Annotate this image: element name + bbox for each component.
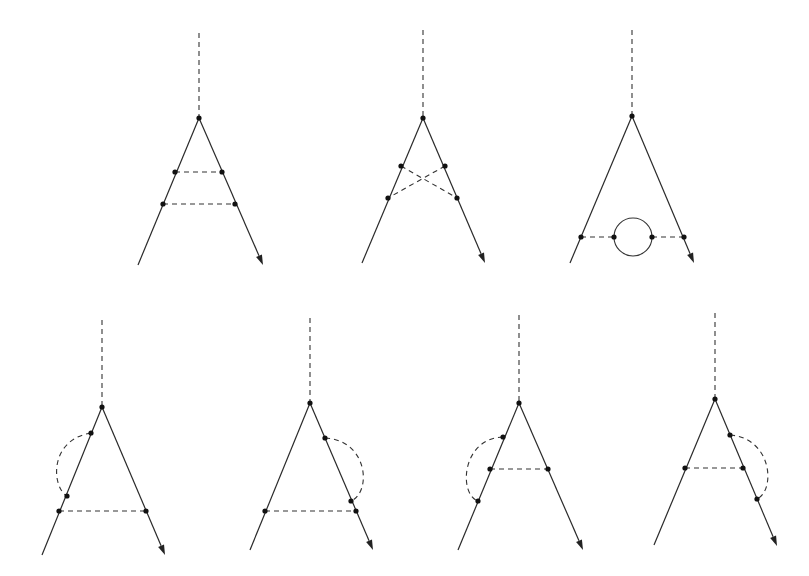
vertex-dot [88,430,93,435]
incoming-fermion-line [42,407,102,555]
vertex-dot [160,201,165,206]
arrowhead-icon [158,545,165,555]
arrowhead-icon [576,540,583,550]
vertex-dot [629,113,634,118]
vertex-dot [442,163,447,168]
vertex-dot [172,169,177,174]
vertex-dot [578,234,583,239]
diagram-self-energy-left-outer [42,320,165,555]
vertex-dot [740,465,745,470]
self-energy-dashed-arc [57,433,91,496]
vertex-dot [754,496,759,501]
incoming-fermion-line [138,118,199,265]
outgoing-fermion-line [199,118,259,256]
incoming-fermion-line [570,116,632,263]
incoming-fermion-line [458,403,519,550]
diagram-self-energy-right-outer [250,318,373,550]
outgoing-fermion-line [102,407,161,546]
outgoing-fermion-line [423,118,481,254]
vertex-dot [307,400,312,405]
vertex-dot [385,195,390,200]
arrowhead-icon [256,255,263,265]
vertex-dot [348,498,353,503]
vertex-dot [196,115,201,120]
diagram-self-energy-right-inner [654,313,777,546]
vertex-dot [500,434,505,439]
outgoing-fermion-line [632,116,690,254]
vertex-dot [682,465,687,470]
outgoing-fermion-line [310,403,369,541]
feynman-diagram-figure [0,0,809,576]
self-energy-dashed-arc [730,435,768,499]
incoming-fermion-line [654,399,715,545]
vertex-dot [143,508,148,513]
internal-dashed-propagator [401,166,457,198]
vertex-dot [398,163,403,168]
incoming-fermion-line [362,118,423,263]
vertex-dot [353,508,358,513]
arrowhead-icon [478,253,485,263]
outgoing-fermion-line [519,403,579,541]
vertex-dot [681,234,686,239]
diagram-ladder [138,33,263,265]
vertex-dot [712,396,717,401]
incoming-fermion-line [250,403,310,550]
vertex-dot [232,201,237,206]
vertex-dot [262,508,267,513]
vertex-dot [611,234,616,239]
arrowhead-icon [770,536,777,546]
vertex-dot [420,115,425,120]
vertex-dot [64,493,69,498]
diagram-crossed-ladder [362,30,485,263]
self-energy-dashed-arc [325,438,363,501]
vertex-dot [56,508,61,513]
vertex-dot [454,195,459,200]
diagram-vacuum-polarization [570,30,694,263]
vertex-dot [475,498,480,503]
vertex-dot [322,435,327,440]
vertex-dot [727,432,732,437]
vertex-dot [649,234,654,239]
arrowhead-icon [366,540,373,550]
vertex-dot [99,404,104,409]
arrowhead-icon [687,253,694,263]
vertex-dot [487,466,492,471]
vertex-dot [545,466,550,471]
vertex-dot [219,169,224,174]
fermion-loop [614,218,652,256]
diagram-self-energy-left-inner [458,315,583,550]
vertex-dot [516,400,521,405]
self-energy-dashed-arc [466,437,503,501]
